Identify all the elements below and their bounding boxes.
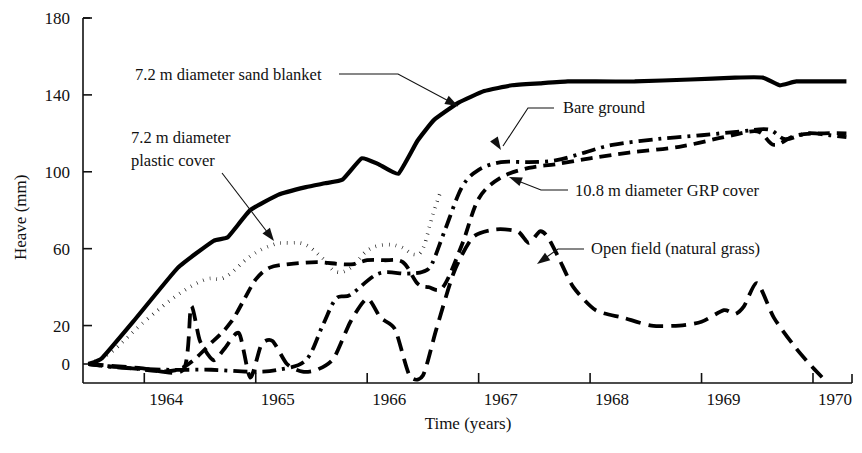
annotation-label-plastic-cover-line2: plastic cover xyxy=(131,151,215,170)
heave-vs-time-chart: 02060100140180 1964196519661967196819691… xyxy=(0,0,862,453)
arrow-head-sand-blanket xyxy=(444,96,458,106)
y-tick-label-20: 20 xyxy=(53,317,70,336)
annotation-grp-cover: 10.8 m diameter GRP cover xyxy=(509,177,760,200)
x-axis-ticks xyxy=(144,373,813,383)
arrow-head-plastic-cover xyxy=(263,228,275,241)
arrow-head-bare-ground xyxy=(490,137,501,150)
annotation-label-open-field: Open field (natural grass) xyxy=(591,239,760,258)
annotation-label-grp-cover: 10.8 m diameter GRP cover xyxy=(575,181,760,200)
y-tick-label-180: 180 xyxy=(45,9,71,28)
x-axis-tick-labels: 1964196519661967196819691970 xyxy=(149,390,852,409)
y-axis-tick-labels: 02060100140180 xyxy=(45,9,71,374)
x-tick-label-1967: 1967 xyxy=(484,390,519,409)
leader-line-plastic-cover xyxy=(222,173,271,237)
y-axis-title: Heave (mm) xyxy=(11,175,30,260)
series-line-7-2-m-diameter-sand-blanket xyxy=(89,77,847,364)
annotation-open-field: Open field (natural grass) xyxy=(537,239,760,264)
annotation-label-plastic-cover-line1: 7.2 m diameter xyxy=(131,128,231,147)
chart-canvas: 02060100140180 1964196519661967196819691… xyxy=(0,0,862,453)
leader-line-sand-blanket xyxy=(339,74,458,106)
arrow-head-grp-cover xyxy=(509,177,523,186)
x-tick-label-1969: 1969 xyxy=(707,390,741,409)
x-tick-label-1966: 1966 xyxy=(372,390,406,409)
x-axis-title: Time (years) xyxy=(425,414,512,433)
arrow-head-open-field xyxy=(537,253,550,264)
annotation-label-sand-blanket: 7.2 m diameter sand blanket xyxy=(135,65,322,84)
leader-line-bare-ground xyxy=(503,108,554,146)
y-tick-label-100: 100 xyxy=(45,163,71,182)
annotation-sand-blanket: 7.2 m diameter sand blanket xyxy=(135,65,458,106)
x-tick-label-1970: 1970 xyxy=(818,390,852,409)
chart-series-group xyxy=(89,77,847,379)
y-tick-label-0: 0 xyxy=(62,355,71,374)
x-tick-label-1968: 1968 xyxy=(595,390,629,409)
annotation-plastic-cover: 7.2 m diameterplastic cover xyxy=(131,128,274,241)
x-tick-label-1965: 1965 xyxy=(261,390,295,409)
annotation-label-bare-ground: Bare ground xyxy=(563,98,646,117)
chart-annotations-group: 7.2 m diameter sand blanket7.2 m diamete… xyxy=(131,65,760,264)
x-tick-label-1964: 1964 xyxy=(149,390,184,409)
y-tick-label-60: 60 xyxy=(53,240,70,259)
y-axis-ticks xyxy=(83,18,92,364)
y-tick-label-140: 140 xyxy=(45,86,71,105)
series-line-7-2-m-diameter-plastic-cover xyxy=(89,191,441,364)
